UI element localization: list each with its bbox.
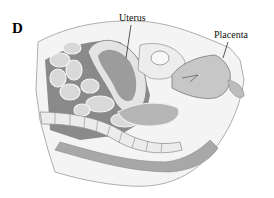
anatomy-figure: D Uterus Placenta <box>0 0 274 198</box>
placenta-label: Placenta <box>214 30 248 40</box>
uterus-label: Uterus <box>119 13 146 23</box>
panel-letter: D <box>12 21 23 36</box>
